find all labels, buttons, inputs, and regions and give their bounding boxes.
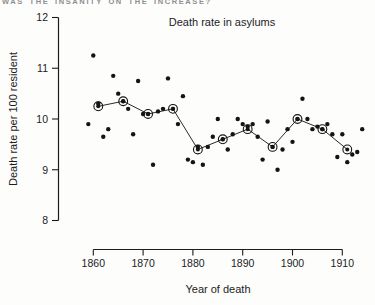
data-point [355, 150, 359, 154]
mean-point-dot [221, 137, 225, 141]
data-point [305, 117, 309, 121]
data-point [265, 119, 269, 123]
data-point [126, 107, 130, 111]
x-axis-label: Year of death [185, 283, 250, 295]
data-point [166, 76, 170, 80]
data-point [151, 162, 155, 166]
chart-canvas: WAS THE INSANITY ON THE INCREASE? Death … [0, 0, 375, 305]
data-point [141, 112, 145, 116]
y-tick-label: 9 [42, 164, 48, 176]
x-tick-label: 1910 [331, 257, 355, 269]
y-tick-label: 8 [42, 214, 48, 226]
mean-point-dot [146, 112, 150, 116]
data-point [176, 122, 180, 126]
mean-point-dot [271, 145, 275, 149]
figure-container: WAS THE INSANITY ON THE INCREASE? Death … [0, 0, 375, 305]
data-point [211, 135, 215, 139]
mean-point-dot [320, 127, 324, 131]
mean-point-dot [196, 147, 200, 151]
x-tick-label: 1900 [281, 257, 305, 269]
data-point [116, 91, 120, 95]
running-header-text: WAS THE INSANITY ON THE INCREASE? [2, 0, 212, 6]
data-point [360, 127, 364, 131]
data-point [330, 132, 334, 136]
mean-point-dot [171, 107, 175, 111]
data-point [201, 162, 205, 166]
x-tick-label: 1870 [131, 257, 155, 269]
data-point [280, 147, 284, 151]
x-tick-label: 1860 [82, 257, 106, 269]
y-tick-label: 10 [36, 113, 48, 125]
data-point [106, 127, 110, 131]
mean-line [98, 101, 347, 149]
data-point [206, 145, 210, 149]
data-point [275, 168, 279, 172]
x-tick-label: 1890 [231, 257, 255, 269]
data-point [91, 53, 95, 57]
data-point [310, 127, 314, 131]
data-point [285, 127, 289, 131]
data-point [101, 135, 105, 139]
mean-point-dot [96, 104, 100, 108]
data-point [111, 74, 115, 78]
data-point [335, 155, 339, 159]
data-point [186, 157, 190, 161]
mean-point-dot [345, 147, 349, 151]
mean-point-dot [121, 99, 125, 103]
mean-point-dot [246, 127, 250, 131]
data-point [340, 132, 344, 136]
data-point [86, 122, 90, 126]
data-point [181, 94, 185, 98]
data-point [161, 107, 165, 111]
data-point [236, 117, 240, 121]
data-point [191, 160, 195, 164]
data-point [260, 157, 264, 161]
axes-layer: 89101112186018701880189019001910 [36, 11, 354, 268]
data-point [290, 140, 294, 144]
data-point [345, 160, 349, 164]
data-point [300, 97, 304, 101]
data-point [255, 135, 259, 139]
data-point [131, 132, 135, 136]
data-point [226, 147, 230, 151]
y-tick-label: 11 [37, 62, 48, 74]
data-point [216, 117, 220, 121]
data-point [136, 79, 140, 83]
x-tick-label: 1880 [181, 257, 205, 269]
y-tick-label: 12 [36, 11, 48, 23]
data-point [156, 109, 160, 113]
mean-point-dot [295, 117, 299, 121]
data-point [231, 132, 235, 136]
plot-area [86, 53, 364, 172]
chart-title: Death rate in asylums [169, 16, 276, 28]
y-axis-label: Death rate per 100 resident [7, 52, 19, 186]
